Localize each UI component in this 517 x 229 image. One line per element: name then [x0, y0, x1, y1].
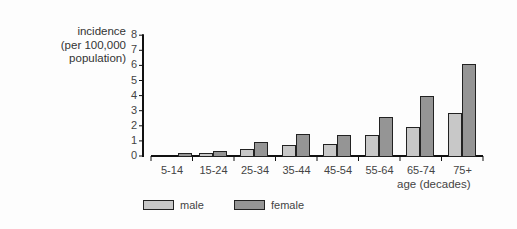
y-tick-label: 8: [123, 28, 137, 40]
bar-male: [406, 127, 420, 157]
y-tick-label: 6: [123, 58, 137, 70]
x-category-label: 65-74: [400, 164, 442, 176]
y-tick-label: 0: [123, 149, 137, 161]
x-axis-label: age (decades): [397, 178, 471, 190]
x-category-label: 45-54: [317, 164, 359, 176]
bar-female: [462, 64, 476, 157]
x-category-label: 15-24: [193, 164, 235, 176]
chart-axes: [0, 0, 517, 229]
y-tick-label: 5: [123, 74, 137, 86]
x-category-label: 35-44: [276, 164, 318, 176]
legend-male: male: [143, 199, 204, 211]
legend-label-female: female: [271, 199, 304, 211]
bar-female: [337, 135, 351, 157]
legend-label-male: male: [180, 199, 204, 211]
bar-female: [254, 142, 268, 157]
bar-female: [213, 151, 227, 157]
bar-female: [296, 134, 310, 157]
x-category-label: 25-34: [234, 164, 276, 176]
y-tick-label: 1: [123, 134, 137, 146]
legend-swatch-female: [234, 200, 265, 210]
y-tick-label: 4: [123, 89, 137, 101]
bar-male: [282, 145, 296, 157]
bar-male: [323, 144, 337, 157]
incidence-bar-chart: incidence (per 100,000 population) 01234…: [0, 0, 517, 229]
bar-female: [178, 153, 192, 157]
y-tick-label: 7: [123, 43, 137, 55]
x-category-label: 55-64: [359, 164, 401, 176]
y-tick-label: 2: [123, 119, 137, 131]
bar-male: [240, 149, 254, 157]
bar-female: [379, 117, 393, 157]
bar-female: [420, 96, 434, 157]
y-tick-label: 3: [123, 104, 137, 116]
bar-male: [199, 153, 213, 157]
x-category-label: 5-14: [151, 164, 193, 176]
legend-female: female: [234, 199, 304, 211]
legend-swatch-male: [143, 200, 174, 210]
x-category-label: 75+: [442, 164, 484, 176]
bar-male: [365, 135, 379, 157]
bar-male: [448, 113, 462, 157]
